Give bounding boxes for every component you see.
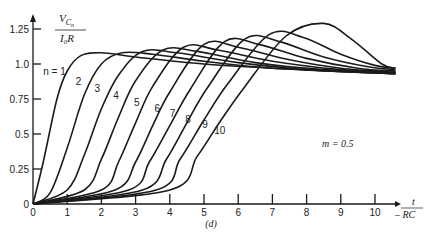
series-label: 8: [185, 114, 191, 125]
series-label: 4: [113, 90, 119, 101]
chart: 01234567891000.250.50.751.01.25 n = 1234…: [0, 0, 429, 244]
y-tick-label: 1.0: [15, 59, 29, 70]
series-label: 5: [134, 97, 140, 108]
x-tick-label: 9: [338, 207, 344, 218]
y-axis-label-numerator: VCn: [59, 12, 74, 28]
x-axis-arrow-icon: [395, 201, 401, 207]
x-tick-label: 4: [167, 207, 173, 218]
curves: [33, 23, 396, 204]
x-tick-label: 7: [270, 207, 276, 218]
y-tick-label: 0.25: [10, 164, 30, 175]
curve-n-8: [33, 35, 396, 204]
x-axis-label-denominator: – RC: [394, 209, 416, 220]
y-tick-label: 0.75: [10, 94, 30, 105]
m-annotation: m = 0.5: [322, 138, 353, 149]
y-axis-arrow-icon: [30, 14, 36, 22]
axes: 01234567891000.250.50.751.01.25: [10, 14, 401, 218]
series-label: 3: [95, 83, 101, 94]
series-label: 10: [214, 125, 226, 136]
x-tick-label: 10: [369, 207, 381, 218]
series-label: 9: [202, 119, 208, 130]
curve-n-10: [33, 23, 396, 204]
figure-caption: (d): [205, 218, 217, 230]
x-tick-label: 6: [235, 207, 241, 218]
x-axis-label-numerator: t: [412, 196, 415, 207]
y-tick-label: 0.5: [15, 129, 29, 140]
x-tick-label: 8: [304, 207, 310, 218]
x-tick-label: 5: [201, 207, 207, 218]
x-tick-label: 0: [30, 207, 36, 218]
series-label: 7: [170, 108, 176, 119]
x-tick-label: 1: [64, 207, 70, 218]
y-tick-label: 1.25: [10, 24, 30, 35]
x-tick-label: 3: [133, 207, 139, 218]
series-label: 6: [154, 103, 160, 114]
curve-n-9: [33, 31, 396, 204]
series-label: n = 1: [43, 66, 66, 77]
series-label: 2: [76, 76, 82, 87]
y-tick-label: 0: [23, 199, 29, 210]
y-axis-label-denominator: I0R: [59, 32, 74, 46]
x-tick-label: 2: [99, 207, 105, 218]
